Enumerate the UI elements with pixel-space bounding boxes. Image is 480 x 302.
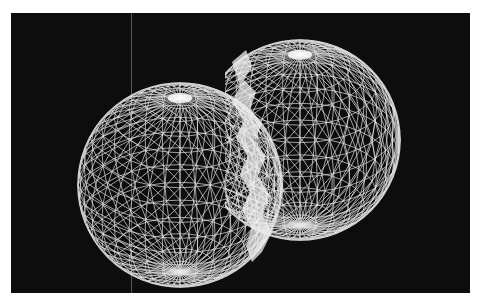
wireframe-spheres-illustration <box>11 13 470 293</box>
image-frame <box>11 13 470 293</box>
